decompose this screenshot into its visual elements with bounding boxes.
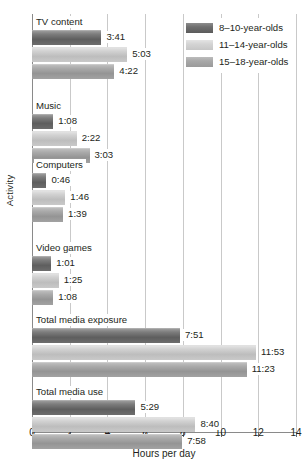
bar [32,190,65,205]
bar-value-label: 5:03 [130,48,153,60]
bar-value-label: 1:01 [54,257,77,269]
bar-value-label: 11:23 [250,363,277,375]
bar-value-label: 0:46 [49,174,72,186]
bar-value-label: 2:22 [80,132,103,144]
bar [32,362,247,377]
legend-label: 8–10-year-olds [219,22,283,33]
bar [32,417,195,432]
category-label: Total media use [34,386,106,398]
gridline [296,14,297,432]
bar [32,328,180,343]
legend-label: 11–14-year-olds [219,39,288,50]
category-label: Computers [34,159,86,171]
x-axis-title: Hours per day [32,448,296,459]
bar-value-label: 3:03 [93,149,116,161]
bar [32,114,53,129]
legend-label: 15–18-year-olds [219,56,288,67]
bar [32,345,256,360]
legend-item[interactable]: 11–14-year-olds [186,37,288,52]
category-label: Video games [34,242,95,254]
plot-area: TV content3:415:034:22Music1:082:223:03C… [32,14,296,432]
bar [32,47,127,62]
bar-value-label: 1:25 [62,274,85,286]
bar-value-label: 7:58 [185,435,208,447]
bar [32,290,53,305]
bar [32,434,182,449]
y-axis-title: Activity [4,156,15,226]
category-label: TV content [34,16,85,28]
bar-value-label: 8:40 [198,418,221,430]
legend-swatch [186,23,213,33]
bar [32,173,46,188]
bar [32,400,135,415]
bar-value-label: 11:53 [259,346,286,358]
bar-value-label: 1:08 [56,291,79,303]
bar [32,64,114,79]
category-label: Music [34,100,64,112]
bar [32,207,63,222]
bar-value-label: 1:46 [68,191,91,203]
bar-value-label: 5:29 [138,401,161,413]
bar-value-label: 7:51 [183,329,206,341]
bar [32,256,51,271]
bar [32,131,77,146]
legend-swatch [186,57,213,67]
bar [32,30,101,45]
category-label: Total media exposure [34,314,130,326]
legend-swatch [186,40,213,50]
chart-legend: 8–10-year-olds11–14-year-olds15–18-year-… [186,18,290,73]
bar-chart: Activity 02468101214 TV content3:415:034… [0,0,306,467]
legend-item[interactable]: 8–10-year-olds [186,20,288,35]
bar-value-label: 3:41 [104,31,127,43]
bar-value-label: 1:08 [56,115,79,127]
bar-value-label: 4:22 [117,65,140,77]
bar [32,273,59,288]
legend-item[interactable]: 15–18-year-olds [186,54,288,69]
bar-value-label: 1:39 [66,208,89,220]
